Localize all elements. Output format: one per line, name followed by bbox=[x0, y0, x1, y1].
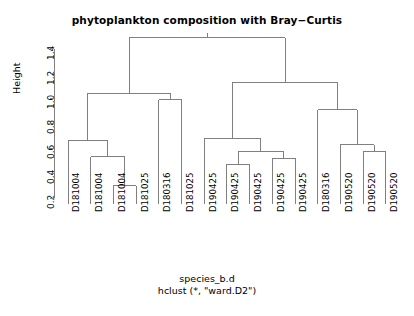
leaf-label: D181025 bbox=[185, 173, 195, 212]
dendrogram-plot: phytoplankton composition with Bray−Curt… bbox=[0, 0, 414, 316]
leaf-label: D181025 bbox=[140, 173, 150, 212]
leaf-label: D190425 bbox=[253, 173, 263, 212]
leaf-label: D181004 bbox=[117, 173, 127, 212]
leaf-label: D190425 bbox=[276, 173, 286, 212]
dendrogram-tree bbox=[68, 33, 386, 204]
leaf-label: D180316 bbox=[162, 173, 172, 212]
plot-subcaption: hclust (*, "ward.D2") bbox=[0, 285, 414, 296]
y-axis bbox=[50, 49, 54, 198]
leaf-label: D181004 bbox=[94, 173, 104, 212]
leaf-label: D190520 bbox=[344, 173, 354, 212]
leaf-label: D190425 bbox=[208, 173, 218, 212]
leaf-label: D180316 bbox=[321, 173, 331, 212]
leaf-label: D190520 bbox=[389, 173, 399, 212]
leaf-label: D190425 bbox=[230, 173, 240, 212]
leaf-label: D190425 bbox=[298, 173, 308, 212]
leaf-label: D190520 bbox=[367, 173, 377, 212]
x-axis-title: species_b.d bbox=[0, 273, 414, 284]
leaf-label: D181004 bbox=[71, 173, 81, 212]
dendrogram-canvas bbox=[0, 0, 414, 316]
leaf-tick-marks bbox=[68, 198, 386, 204]
